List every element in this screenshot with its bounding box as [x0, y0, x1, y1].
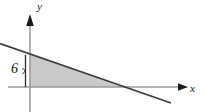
arrow-right-icon	[178, 83, 188, 91]
coordinate-plane	[0, 0, 207, 112]
x-axis-label: x	[190, 83, 195, 94]
y-axis-label: y	[37, 1, 42, 12]
graph-figure: y x 6	[0, 0, 207, 112]
arrow-up-icon	[26, 14, 34, 26]
y-intercept-value-label: 6	[11, 62, 18, 76]
